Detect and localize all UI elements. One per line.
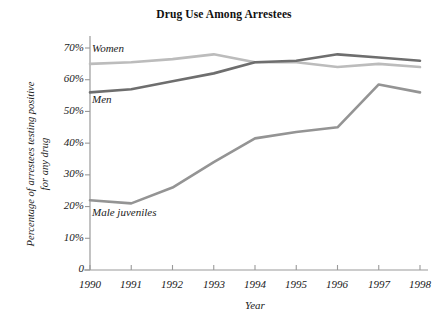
series-line-male-juveniles <box>90 84 420 203</box>
series-line-men <box>90 54 420 92</box>
series-label-men: Men <box>92 93 112 105</box>
axes-group <box>84 36 428 270</box>
chart-figure: Drug Use Among Arrestees Percentage of a… <box>0 0 448 328</box>
plot-area <box>0 0 448 328</box>
series-label-male-juveniles: Male juveniles <box>92 206 156 218</box>
series-lines-group <box>90 54 420 203</box>
series-label-women: Women <box>92 42 124 54</box>
